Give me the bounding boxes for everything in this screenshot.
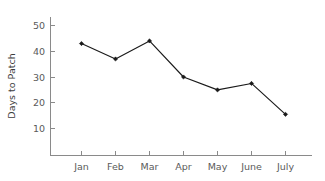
x-tick-label-jan: Jan [73, 161, 89, 172]
x-axis-ticks [82, 151, 286, 156]
y-tick-label-40: 40 [33, 46, 45, 57]
x-axis-tick-labels: Jan Feb Mar Apr May June July [73, 161, 294, 172]
y-tick-label-10: 10 [33, 123, 45, 134]
y-tick-label-50: 50 [33, 20, 45, 31]
x-tick-label-july: July [276, 161, 294, 172]
x-tick-label-may: May [208, 161, 228, 172]
y-tick-label-20: 20 [33, 97, 45, 108]
x-tick-label-mar: Mar [141, 161, 159, 172]
y-tick-label-30: 30 [33, 72, 45, 83]
data-point-marker [113, 57, 117, 61]
x-tick-label-apr: Apr [175, 161, 192, 172]
y-axis-ticks [51, 26, 56, 129]
y-axis-tick-labels: 50 40 30 20 10 [33, 20, 45, 134]
data-point-marker [215, 88, 219, 92]
x-tick-label-feb: Feb [107, 161, 124, 172]
x-tick-label-june: June [240, 161, 262, 172]
y-axis-title: Days to Patch [6, 53, 17, 118]
data-point-marker [79, 41, 83, 45]
line-chart: 50 40 30 20 10 Jan Feb Mar Apr May June … [0, 0, 325, 181]
data-series-markers [79, 39, 287, 117]
chart-figure: 50 40 30 20 10 Jan Feb Mar Apr May June … [0, 0, 325, 181]
